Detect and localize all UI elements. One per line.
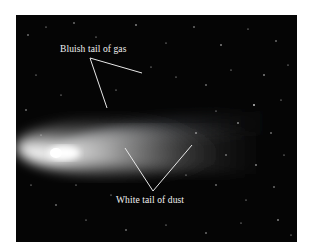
gas-tail-pointer: [90, 58, 142, 108]
dust-tail-label: White tail of dust: [116, 195, 184, 205]
gas-tail-label: Bluish tail of gas: [60, 44, 126, 54]
comet-illustration: [16, 15, 297, 242]
cropped-caption-fragment: [2, 244, 18, 248]
comet-photograph: Bluish tail of gas White tail of dust: [16, 15, 297, 242]
